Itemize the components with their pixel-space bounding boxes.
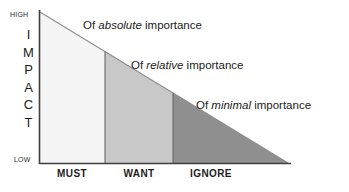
band-label-prefix: Of xyxy=(131,59,146,71)
band-label-ignore: Of minimal importance xyxy=(196,99,311,111)
band-label-suffix: importance xyxy=(142,19,202,31)
y-axis-title-letter: P xyxy=(20,61,37,79)
band-label-emphasis: minimal xyxy=(211,99,251,111)
y-axis-title-letter: A xyxy=(20,79,37,97)
band-label-prefix: Of xyxy=(83,19,98,31)
band-label-emphasis: absolute xyxy=(98,19,141,31)
y-axis-high-label: HIGH xyxy=(10,11,28,18)
y-axis-title-letter: C xyxy=(20,96,37,114)
band-label-emphasis: relative xyxy=(146,59,183,71)
band-label-want: Of relative importance xyxy=(131,59,244,71)
y-axis-low-label: LOW xyxy=(14,156,31,163)
band-shape-must xyxy=(40,12,105,163)
band-label-suffix: importance xyxy=(251,99,311,111)
y-axis-title-impact: I M P A C T xyxy=(20,26,37,131)
impact-priority-triangle-diagram: I M P A C T HIGH LOW Of absolute importa… xyxy=(0,0,349,192)
y-axis-title-letter: T xyxy=(20,114,37,132)
y-axis-title-letter: I xyxy=(20,26,37,44)
band-label-must: Of absolute importance xyxy=(83,19,202,31)
x-axis-label-want: WANT xyxy=(123,168,154,179)
x-axis-label-ignore: IGNORE xyxy=(190,168,232,179)
band-label-prefix: Of xyxy=(196,99,211,111)
x-axis-label-must: MUST xyxy=(57,168,87,179)
y-axis-title-letter: M xyxy=(20,44,37,62)
band-label-suffix: importance xyxy=(183,59,243,71)
